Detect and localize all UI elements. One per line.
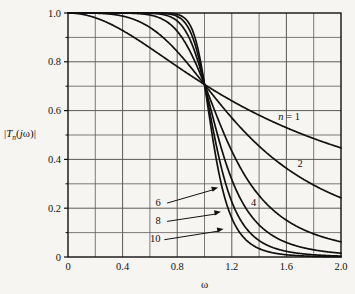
curve-label-n-8: 8 xyxy=(155,215,160,226)
x-tick-label: 0 xyxy=(65,261,70,272)
curve-label-n-10: 10 xyxy=(150,233,161,244)
y-axis-label: |Tn(jω)| xyxy=(4,127,36,142)
x-tick-label: 0.4 xyxy=(116,261,130,272)
chart-plot-area: 00.20.40.60.81.000.40.81.21.62.0 n = 124… xyxy=(0,0,355,294)
curve-labels: n = 1246810 xyxy=(150,111,303,244)
y-tick-label: 0.2 xyxy=(48,203,61,214)
grid-minor-lines xyxy=(68,13,341,257)
leader-line-n-8 xyxy=(167,214,217,222)
x-tick-label: 2.0 xyxy=(334,261,347,272)
leader-arrowhead-n-8 xyxy=(214,210,221,215)
curve-label-n-4: 4 xyxy=(251,197,257,208)
x-axis-title: ω xyxy=(201,278,208,290)
leader-arrowhead-n-10 xyxy=(217,227,224,232)
butterworth-response-figure: |Tn(jω)| 00.20.40.60.81.000.40.81.21.62.… xyxy=(0,0,355,294)
y-tick-label: 0.8 xyxy=(48,56,61,67)
x-tick-label: 1.2 xyxy=(225,261,238,272)
curve-label-n-1: n = 1 xyxy=(278,111,300,122)
y-tick-label: 1.0 xyxy=(48,8,61,19)
leader-line-n-6 xyxy=(167,189,214,203)
y-tick-label: 0.6 xyxy=(48,105,61,116)
x-tick-label: 1.6 xyxy=(280,261,293,272)
leader-arrows xyxy=(164,187,223,240)
y-tick-label: 0.4 xyxy=(48,154,62,165)
x-tick-label: 0.8 xyxy=(171,261,184,272)
leader-arrowhead-n-6 xyxy=(211,187,218,192)
axis-titles: ω xyxy=(201,278,208,290)
curve-label-n-6: 6 xyxy=(155,197,160,208)
y-tick-label: 0 xyxy=(56,252,61,263)
curve-label-n-2: 2 xyxy=(297,158,302,169)
